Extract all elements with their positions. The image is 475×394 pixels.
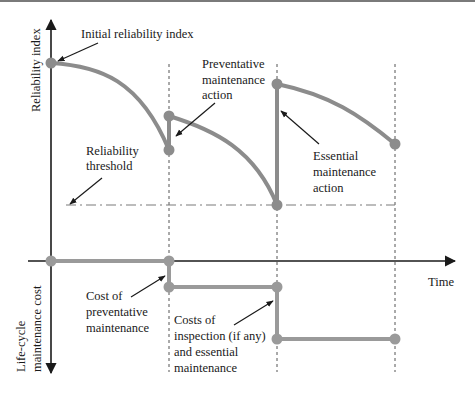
point-end [390, 139, 401, 150]
point-before-essential [272, 200, 283, 211]
cost-point [164, 282, 175, 293]
y-axis-lower-label-line2: maintenance cost [30, 285, 44, 372]
cost-point [272, 282, 283, 293]
label-cost-essential-2: inspection (if any) [174, 329, 266, 343]
arrow-initial [58, 43, 98, 61]
cost-point [272, 334, 283, 345]
y-axis-upper-label: Reliability index [29, 28, 43, 112]
cost-point [390, 334, 401, 345]
point-before-preventative [164, 145, 175, 156]
cost-point [164, 256, 175, 267]
diagram-canvas: Reliability index Life-cycle maintenance… [0, 0, 475, 394]
label-cost-essential-4: maintenance [174, 361, 238, 375]
arrow-cost-preventative [131, 276, 165, 297]
arrow-cost-essential [234, 301, 273, 325]
y-axis-lower-label-line1: Life-cycle [14, 320, 28, 372]
x-axis-label: Time [428, 275, 454, 289]
label-preventative-1: Preventative [202, 57, 265, 71]
label-cost-preventative-1: Cost of [86, 289, 123, 303]
label-initial-reliability: Initial reliability index [81, 27, 194, 41]
point-after-essential [272, 79, 283, 90]
label-cost-essential-3: and essential [174, 345, 239, 359]
arrow-essential [281, 111, 319, 144]
label-threshold-2: threshold [86, 159, 133, 173]
label-essential-3: action [313, 181, 344, 195]
label-preventative-2: maintenance [202, 73, 266, 87]
label-threshold-1: Reliability [86, 144, 140, 158]
arrow-threshold [70, 178, 102, 204]
diagram-svg: Reliability index Life-cycle maintenance… [0, 0, 475, 394]
label-cost-preventative-3: maintenance [86, 321, 150, 335]
cost-point [46, 256, 57, 267]
label-essential-2: maintenance [313, 165, 377, 179]
label-cost-preventative-2: preventative [86, 305, 148, 319]
point-initial [46, 58, 57, 69]
label-essential-1: Essential [313, 149, 359, 163]
label-preventative-3: action [202, 88, 233, 102]
label-cost-essential-1: Costs of [174, 313, 216, 327]
point-after-preventative [164, 111, 175, 122]
